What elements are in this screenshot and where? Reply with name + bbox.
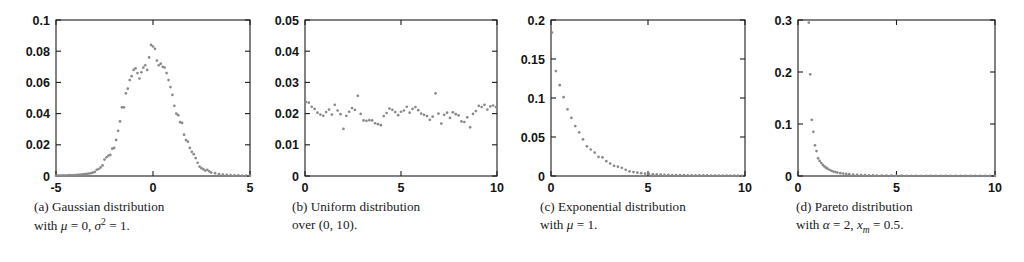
data-point — [733, 174, 736, 177]
data-point — [440, 122, 443, 125]
data-point — [659, 173, 662, 176]
data-point — [632, 171, 635, 174]
caption-line-2-c: with μ = 1. — [540, 216, 686, 234]
data-point — [836, 171, 839, 174]
data-point — [333, 104, 336, 107]
data-point — [959, 175, 962, 178]
data-point — [842, 172, 845, 175]
data-point — [420, 112, 423, 115]
data-point — [495, 106, 498, 109]
data-point — [72, 174, 75, 177]
data-point — [175, 112, 178, 115]
data-point — [489, 105, 492, 108]
data-point — [663, 173, 666, 176]
y-tick-label-a-2: 0.04 — [26, 107, 50, 121]
data-point — [218, 173, 221, 176]
data-point — [469, 126, 472, 129]
data-point — [845, 173, 848, 176]
data-point — [105, 156, 108, 159]
data-series-b — [305, 92, 498, 130]
data-point — [229, 174, 232, 177]
data-point — [400, 110, 403, 113]
data-point — [875, 174, 878, 177]
caption-line-1-a: (a) Gaussian distribution — [34, 198, 164, 216]
data-point — [860, 174, 863, 177]
axes-b: 051000.010.020.030.040.05 — [0, 0, 1024, 200]
data-point — [93, 171, 96, 174]
x-tick-label-d-2: 10 — [988, 181, 1002, 195]
data-point — [187, 140, 190, 143]
caption-line-2-a: with μ = 0, σ2 = 1. — [34, 216, 164, 235]
y-tick-label-b-0: 0 — [292, 170, 299, 184]
data-point — [88, 172, 91, 175]
data-point — [245, 174, 248, 177]
data-point — [414, 106, 417, 109]
data-point — [403, 109, 406, 112]
data-point — [113, 147, 116, 150]
data-point — [99, 166, 102, 169]
data-point — [694, 174, 697, 177]
data-point — [815, 150, 818, 153]
data-point — [134, 67, 137, 70]
data-point — [148, 56, 151, 59]
data-point — [377, 123, 380, 126]
data-point — [620, 166, 623, 169]
data-point — [356, 94, 359, 97]
data-point — [179, 121, 182, 124]
data-point — [417, 109, 420, 112]
data-point — [130, 75, 133, 78]
data-point — [140, 71, 143, 74]
data-point — [974, 175, 977, 178]
y-tick-label-a-3: 0.06 — [26, 76, 50, 90]
data-point — [342, 128, 345, 131]
data-point — [92, 171, 95, 174]
data-point — [834, 171, 837, 174]
data-point — [80, 173, 83, 176]
data-point — [82, 173, 85, 176]
y-tick-label-c-1: 0.05 — [521, 131, 545, 145]
caption-end-a: = 1. — [106, 218, 130, 233]
data-point — [848, 173, 851, 176]
data-point — [397, 114, 400, 117]
data-point — [371, 119, 374, 122]
caption-mid-a: = 0, — [67, 218, 94, 233]
axes-d: 051000.10.20.3 — [0, 0, 1024, 200]
data-point — [954, 175, 957, 178]
data-point — [431, 115, 434, 118]
data-point — [667, 174, 670, 177]
data-point — [167, 79, 170, 82]
caption-line-1-b: (b) Uniform distribution — [292, 198, 420, 216]
data-point — [582, 138, 585, 141]
y-tick-label-c-4: 0.2 — [528, 14, 545, 28]
data-point — [885, 174, 888, 177]
data-point — [74, 174, 77, 177]
data-point — [362, 119, 365, 122]
data-point — [737, 174, 740, 177]
data-point — [451, 111, 454, 114]
caption-prefix-d: with — [796, 217, 823, 232]
caption-line-1-c: (c) Exponential distribution — [540, 198, 686, 216]
data-point — [206, 168, 209, 171]
data-point — [200, 167, 203, 170]
data-point — [84, 173, 87, 176]
data-point — [192, 153, 195, 156]
data-point — [405, 105, 408, 108]
panel-caption-d: (d) Pareto distributionwith α = 2, xm = … — [796, 198, 912, 236]
data-point — [472, 113, 475, 116]
data-point — [994, 175, 997, 178]
data-point — [119, 120, 122, 123]
data-point — [165, 72, 168, 75]
data-point — [202, 168, 205, 171]
data-point — [313, 108, 316, 111]
data-point — [316, 111, 319, 114]
data-point — [177, 114, 180, 117]
data-point — [208, 170, 211, 173]
data-point — [597, 156, 600, 159]
data-point — [60, 174, 63, 177]
data-point — [890, 174, 893, 177]
data-point — [617, 165, 620, 168]
data-point — [434, 92, 437, 95]
data-point — [374, 122, 377, 125]
data-series-c — [551, 31, 744, 177]
data-point — [68, 174, 71, 177]
